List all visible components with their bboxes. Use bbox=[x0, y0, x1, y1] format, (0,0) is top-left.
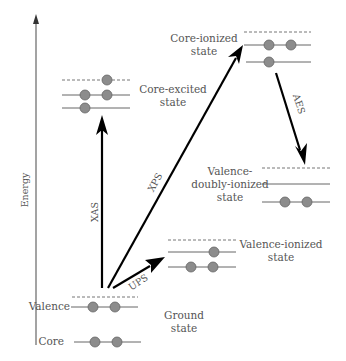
valence-ionized-label-2: state bbox=[268, 251, 294, 263]
valence-ionized-label-1: Valence-ionized bbox=[238, 238, 322, 250]
ground-state-label-1: Ground bbox=[164, 309, 204, 321]
ups-label: UPS bbox=[126, 272, 150, 293]
xas-label: XAS bbox=[89, 202, 100, 222]
valence-ionized-state: Valence-ionized state bbox=[168, 238, 323, 272]
valence-doubly-ionized-state: Valence- doubly-ionized state bbox=[191, 165, 330, 207]
core-ionized-label-2: state bbox=[191, 45, 217, 57]
aes-label: AES bbox=[291, 92, 308, 116]
core-excited-label-2: state bbox=[160, 96, 186, 108]
valence-doubly-ionized-label-1: Valence- bbox=[207, 165, 253, 177]
core-excited-label-1: Core-excited bbox=[139, 83, 207, 95]
xas-arrow: XAS bbox=[89, 115, 108, 288]
ground-state-label-2: state bbox=[171, 322, 197, 334]
valence-doubly-ionized-label-3: state bbox=[217, 191, 243, 203]
energy-axis: Energy bbox=[19, 14, 39, 345]
core-ionized-label-1: Core-ionized bbox=[170, 32, 238, 44]
ups-arrow: UPS bbox=[113, 257, 165, 292]
valence-label: Valence bbox=[28, 300, 70, 312]
core-excited-state: Core-excited state bbox=[62, 75, 207, 113]
valence-doubly-ionized-label-2: doubly-ionized bbox=[191, 178, 269, 190]
energy-level-diagram: Energy Valence Core Ground state Core-ex… bbox=[0, 0, 346, 361]
aes-arrow: AES bbox=[276, 73, 308, 165]
energy-axis-label: Energy bbox=[19, 172, 30, 207]
core-label: Core bbox=[38, 335, 64, 347]
ground-state: Valence Core Ground state bbox=[28, 297, 205, 347]
